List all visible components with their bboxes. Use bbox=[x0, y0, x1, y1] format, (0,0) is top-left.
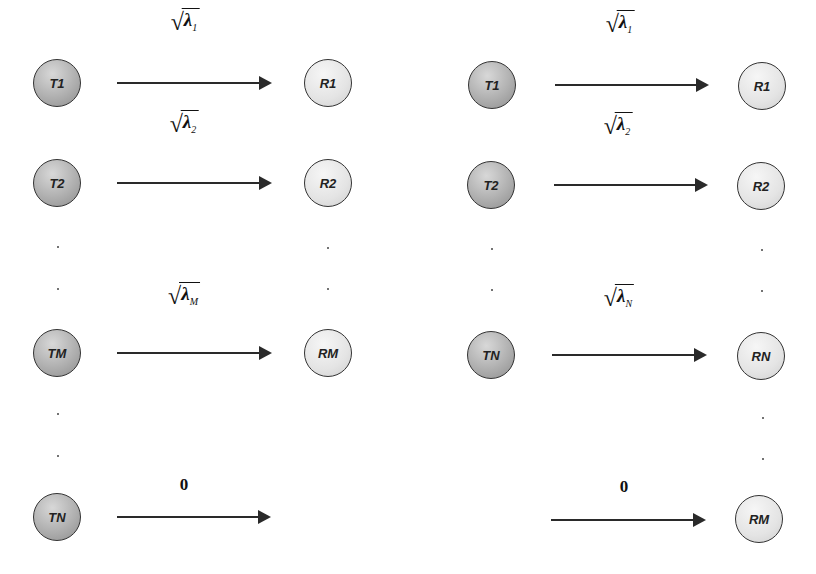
node-label: R2 bbox=[320, 176, 337, 191]
mimo-channel-diagram: T1 √λ1 R1 T2 √λ2 R2 TM √λM RM TN 0 T1 √λ… bbox=[0, 0, 816, 574]
node-label: T1 bbox=[49, 76, 64, 91]
tx-node-t2: T2 bbox=[467, 161, 515, 209]
rx-node-rm: RM bbox=[304, 329, 352, 377]
rx-node-r1: R1 bbox=[304, 59, 352, 107]
lambda-symbol: λ bbox=[619, 11, 627, 32]
gain-label-zero: 0 bbox=[620, 477, 629, 497]
node-label: T2 bbox=[49, 176, 64, 191]
lambda-symbol: λ bbox=[617, 285, 625, 306]
gain-label-lambda-2: √λ2 bbox=[170, 110, 199, 140]
node-label: R2 bbox=[753, 179, 770, 194]
subscript: 2 bbox=[625, 126, 630, 137]
tx-node-tm: TM bbox=[33, 329, 81, 377]
ellipsis-dot bbox=[762, 458, 764, 460]
rx-node-r2: R2 bbox=[304, 159, 352, 207]
tx-node-t1: T1 bbox=[33, 59, 81, 107]
ellipsis-dot bbox=[57, 455, 59, 457]
subscript: 1 bbox=[627, 24, 632, 35]
channel-arrow bbox=[117, 82, 260, 84]
gain-label-lambda-2: √λ2 bbox=[604, 112, 633, 142]
gain-label-lambda-1: √λ1 bbox=[171, 8, 200, 38]
lambda-symbol: λ bbox=[184, 9, 192, 30]
subscript: N bbox=[625, 298, 632, 309]
channel-arrow bbox=[551, 519, 694, 521]
rx-node-r2: R2 bbox=[737, 162, 785, 210]
node-label: TN bbox=[482, 348, 499, 363]
ellipsis-dot bbox=[57, 413, 59, 415]
channel-arrow bbox=[554, 184, 696, 186]
tx-node-tn: TN bbox=[33, 493, 81, 541]
gain-label-zero: 0 bbox=[180, 475, 189, 495]
ellipsis-dot bbox=[327, 247, 329, 249]
ellipsis-dot bbox=[761, 290, 763, 292]
ellipsis-dot bbox=[762, 417, 764, 419]
channel-arrow bbox=[117, 352, 260, 354]
channel-arrow bbox=[117, 182, 260, 184]
ellipsis-dot bbox=[327, 288, 329, 290]
node-label: R1 bbox=[320, 76, 337, 91]
node-label: RN bbox=[752, 349, 771, 364]
subscript: 1 bbox=[192, 22, 197, 33]
channel-arrow bbox=[117, 516, 259, 518]
subscript: 2 bbox=[191, 124, 196, 135]
ellipsis-dot bbox=[761, 249, 763, 251]
channel-arrow bbox=[552, 354, 695, 356]
gain-label-lambda-m: √λM bbox=[168, 282, 200, 312]
lambda-symbol: λ bbox=[181, 283, 189, 304]
ellipsis-dot bbox=[57, 246, 59, 248]
node-label: RM bbox=[318, 346, 338, 361]
ellipsis-dot bbox=[57, 288, 59, 290]
rx-node-rm: RM bbox=[735, 495, 783, 543]
rx-node-rn: RN bbox=[737, 332, 785, 380]
node-label: T1 bbox=[484, 78, 499, 93]
lambda-symbol: λ bbox=[183, 111, 191, 132]
node-label: RM bbox=[749, 512, 769, 527]
lambda-symbol: λ bbox=[617, 113, 625, 134]
tx-node-tn: TN bbox=[467, 331, 515, 379]
gain-label-lambda-1: √λ1 bbox=[606, 10, 635, 40]
node-label: R1 bbox=[754, 79, 771, 94]
channel-arrow bbox=[555, 84, 697, 86]
gain-label-lambda-n: √λN bbox=[604, 284, 634, 314]
subscript: M bbox=[190, 296, 198, 307]
node-label: TN bbox=[48, 510, 65, 525]
node-label: T2 bbox=[483, 178, 498, 193]
ellipsis-dot bbox=[491, 289, 493, 291]
node-label: TM bbox=[48, 346, 67, 361]
rx-node-r1: R1 bbox=[738, 62, 786, 110]
tx-node-t1: T1 bbox=[468, 61, 516, 109]
tx-node-t2: T2 bbox=[33, 159, 81, 207]
ellipsis-dot bbox=[491, 248, 493, 250]
